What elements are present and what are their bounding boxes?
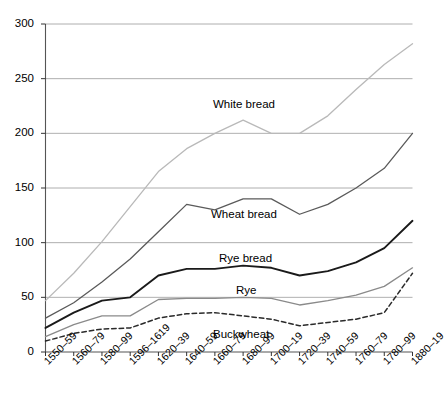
series-line-rye	[46, 268, 413, 337]
series-lines	[46, 44, 413, 341]
axis-ticks	[41, 24, 413, 356]
series-label-rye: Rye	[236, 285, 256, 297]
series-label-buckwheat: Buckwheat	[213, 329, 269, 341]
series-line-wheat-bread	[46, 133, 413, 318]
y-axis-tick-label: 300	[8, 18, 34, 30]
y-axis-tick-label: 100	[8, 237, 34, 249]
y-axis-tick-label: 150	[8, 182, 34, 194]
series-label-white-bread: White bread	[213, 99, 275, 111]
series-line-rye-bread	[46, 221, 413, 328]
y-axis-tick-label: 200	[8, 127, 34, 139]
series-label-wheat-bread: Wheat bread	[211, 209, 277, 221]
y-axis-tick-label: 50	[8, 291, 34, 303]
series-label-rye-bread: Rye bread	[219, 253, 272, 265]
y-axis-tick-label: 250	[8, 73, 34, 85]
y-axis-tick-label: 0	[8, 346, 34, 358]
